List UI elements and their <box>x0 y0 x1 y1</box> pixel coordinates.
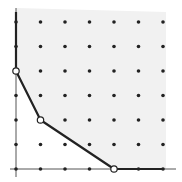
lattice-point <box>137 94 141 98</box>
lattice-point <box>88 45 92 49</box>
lattice-point <box>14 118 18 122</box>
lattice-point <box>63 45 67 49</box>
lattice-point <box>39 20 43 24</box>
lattice-point <box>14 94 18 98</box>
lattice-point <box>88 20 92 24</box>
lattice-point <box>137 143 141 147</box>
lattice-point <box>88 94 92 98</box>
lattice-point <box>112 20 116 24</box>
lattice-point <box>112 143 116 147</box>
lattice-point <box>161 118 165 122</box>
lattice-point <box>14 167 18 171</box>
lattice-point <box>88 167 92 171</box>
lattice-point <box>161 20 165 24</box>
lattice-point <box>137 118 141 122</box>
lattice-point <box>63 94 67 98</box>
lattice-point <box>63 118 67 122</box>
lattice-point <box>137 45 141 49</box>
polygon-vertex <box>37 117 43 123</box>
lattice-point <box>161 143 165 147</box>
lattice-point <box>63 143 67 147</box>
lattice-point <box>161 94 165 98</box>
lattice-point <box>112 118 116 122</box>
lattice-point <box>137 69 141 73</box>
newton-polygon-diagram <box>0 0 182 182</box>
lattice-point <box>63 20 67 24</box>
lattice-point <box>112 45 116 49</box>
lattice-point <box>161 69 165 73</box>
lattice-point <box>14 143 18 147</box>
lattice-point <box>161 45 165 49</box>
lattice-point <box>112 94 116 98</box>
polygon-vertex <box>111 166 117 172</box>
lattice-point <box>39 69 43 73</box>
lattice-point <box>88 69 92 73</box>
lattice-point <box>39 94 43 98</box>
lattice-point <box>137 20 141 24</box>
polygon-vertex <box>13 68 19 74</box>
lattice-point <box>88 143 92 147</box>
lattice-point <box>39 45 43 49</box>
lattice-point <box>112 69 116 73</box>
lattice-point <box>39 167 43 171</box>
lattice-point <box>39 143 43 147</box>
lattice-point <box>63 167 67 171</box>
lattice-point <box>88 118 92 122</box>
lattice-point <box>63 69 67 73</box>
